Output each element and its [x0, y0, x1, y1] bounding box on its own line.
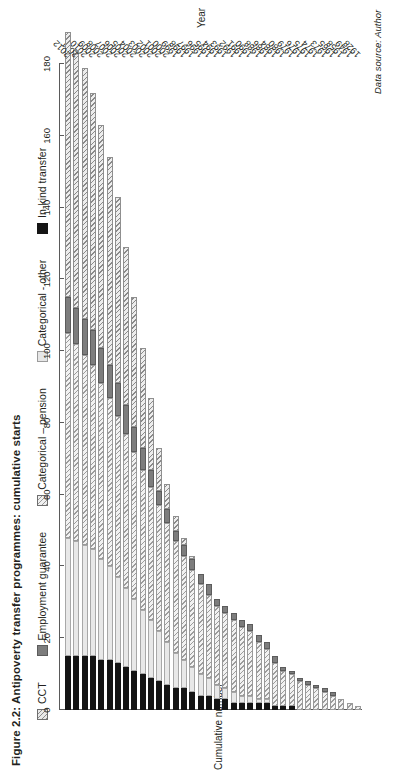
bar-segment-ink — [164, 685, 170, 710]
bar-segment-ink — [82, 656, 88, 710]
bar-segment-cct — [181, 538, 187, 545]
bar-row — [156, 448, 162, 710]
bar-segment-pen — [239, 627, 245, 695]
bar-segment-pen — [313, 688, 319, 710]
bar-segment-oth — [107, 566, 113, 659]
bar-segment-cct — [148, 398, 154, 470]
axis-tick-label: 20 — [41, 633, 52, 644]
bar-segment-ink — [256, 703, 262, 710]
bar-segment-emp — [198, 574, 204, 585]
bar-row — [115, 197, 121, 710]
bar-segment-ink — [272, 706, 278, 710]
bar-row — [256, 635, 262, 710]
bar-segment-ink — [107, 660, 113, 710]
bar-segment-oth — [98, 559, 104, 659]
bar-segment-cct — [65, 32, 71, 298]
in-kind-transfer-swatch — [37, 223, 48, 234]
bar-segment-oth — [148, 620, 154, 677]
bar-row — [264, 642, 270, 710]
bar-segment-cct — [173, 516, 179, 530]
bar-segment-emp — [123, 405, 129, 434]
bar-segment-pen — [73, 344, 79, 541]
bar-segment-pen — [140, 470, 146, 610]
bar-segment-cct — [189, 556, 195, 560]
axis-tick-label: 100 — [41, 343, 52, 359]
bar-segment-pen — [322, 692, 328, 710]
bar-row — [297, 678, 303, 710]
bar-segment-oth — [65, 538, 71, 656]
bar-segment-emp — [289, 671, 295, 675]
bar-segment-cct — [107, 157, 113, 365]
bar-segment-pen — [256, 642, 262, 699]
bar-segment-emp — [280, 667, 286, 671]
bar-row — [148, 398, 154, 710]
bar-row — [347, 703, 353, 710]
bar-segment-oth — [73, 541, 79, 656]
bar-segment-emp — [98, 348, 104, 384]
bar-segment-ink — [65, 656, 71, 710]
bar-row — [73, 50, 79, 710]
category-axis-title: Year — [196, 8, 207, 28]
bar-segment-ink — [173, 688, 179, 710]
bar-row — [131, 297, 137, 710]
employment-guarantee-swatch — [37, 645, 48, 656]
bar-segment-cct — [82, 68, 88, 319]
bar-row — [206, 584, 212, 710]
axis-tick-label: 180 — [41, 56, 52, 72]
bar-row — [82, 68, 88, 710]
bar-segment-pen — [164, 523, 170, 641]
bar-row — [272, 656, 278, 710]
bar-segment-ink — [198, 696, 204, 710]
bar-segment-emp — [322, 688, 328, 692]
bar-segment-ink — [239, 703, 245, 710]
bar-row — [214, 599, 220, 710]
legend-item: In-kind transfer — [36, 148, 48, 234]
bar-segment-emp — [156, 491, 162, 505]
axis-tick-label: 0 — [41, 707, 52, 712]
bar-segment-oth — [164, 642, 170, 685]
bar-segment-oth — [181, 660, 187, 689]
bar-row — [313, 685, 319, 710]
bar-segment-emp — [297, 678, 303, 682]
bar-segment-cct — [140, 348, 146, 448]
bar-segment-ink — [156, 681, 162, 710]
bar-segment-ink — [289, 706, 295, 710]
bar-segment-pen — [289, 674, 295, 706]
bar-segment-ink — [214, 699, 220, 710]
bar-segment-oth — [198, 674, 204, 696]
bar-segment-oth — [264, 699, 270, 703]
bar-segment-emp — [222, 606, 228, 613]
bar-segment-oth — [82, 545, 88, 656]
bar-segment-pen — [297, 681, 303, 710]
bar-segment-emp — [148, 470, 154, 488]
bar-segment-ink — [73, 656, 79, 710]
legend-label: CCT — [36, 682, 48, 704]
bar-segment-oth — [231, 692, 237, 703]
bar-segment-emp — [189, 559, 195, 570]
bar-segment-cct — [90, 93, 96, 330]
bar-segment-oth — [214, 685, 220, 699]
bar-segment-cct — [98, 125, 104, 348]
axis-tick-label: 60 — [41, 489, 52, 500]
bar-row — [247, 624, 253, 710]
legend-item: CCT — [36, 682, 48, 720]
bar-segment-emp — [82, 319, 88, 355]
bar-segment-emp — [231, 613, 237, 620]
bar-segment-cct — [123, 247, 129, 405]
bar-row — [107, 157, 113, 710]
bar-segment-pen — [148, 488, 154, 621]
bar-row — [173, 516, 179, 710]
bar-segment-oth — [206, 678, 212, 696]
bar-segment-ink — [189, 692, 195, 710]
legend-label: Employment guarantee — [36, 532, 48, 641]
bar-segment-pen — [189, 570, 195, 667]
bar-segment-pen — [355, 706, 361, 710]
bar-segment-oth — [115, 577, 121, 663]
bar-segment-ink — [206, 696, 212, 710]
value-axis — [59, 64, 60, 710]
bar-segment-pen — [198, 584, 204, 674]
bar-row — [65, 32, 71, 710]
bar-segment-pen — [131, 452, 137, 599]
bar-row — [90, 93, 96, 710]
bar-row — [231, 613, 237, 710]
